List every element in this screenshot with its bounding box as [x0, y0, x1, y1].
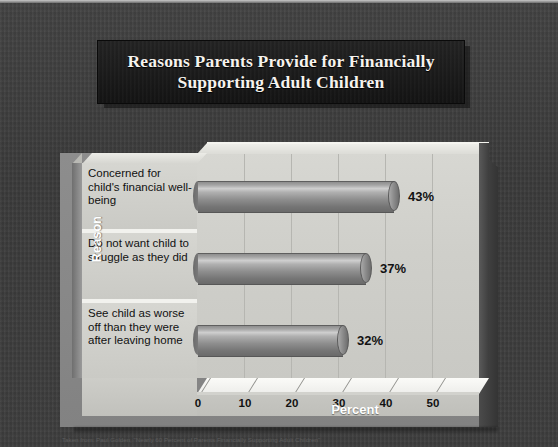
plot-wall-top-ledge [197, 143, 489, 154]
chart-drop-shadow [74, 427, 498, 432]
bar-1-end-cap [360, 253, 372, 283]
plot-wall-top-highlight [207, 142, 489, 144]
slide-top-edge [0, 0, 558, 3]
x-tick-label-0: 0 [185, 397, 211, 409]
plot-wall-right-face [479, 143, 489, 378]
title-box: Reasons Parents Provide for Financially … [98, 41, 464, 103]
bar-chart: Concerned for child's financial well-bei… [60, 139, 498, 427]
x-axis-title: Percent [210, 402, 500, 417]
bar-1-value-label: 37% [380, 261, 406, 276]
page-title: Reasons Parents Provide for Financially … [117, 51, 444, 93]
bar-2-end-cap [337, 325, 349, 355]
bar-0-end-cap [388, 181, 400, 211]
slide-canvas: Reasons Parents Provide for Financially … [0, 0, 558, 447]
bar-0-value-label: 43% [408, 189, 434, 204]
gridline-50 [432, 153, 433, 378]
bar-2-value-label: 32% [357, 333, 383, 348]
plot-floor-front-edge [197, 392, 479, 395]
source-caption: Taken from: Paul Golden, "Nearly 60 Perc… [62, 436, 557, 443]
axis-strip-left [82, 378, 197, 416]
y-axis-title: Reason [90, 199, 106, 279]
bar-1 [198, 253, 366, 285]
label-panel-left-face [72, 163, 82, 378]
category-label-2: See child as worse off than they were af… [82, 303, 197, 378]
bar-2 [198, 325, 343, 357]
bar-0 [198, 181, 394, 213]
